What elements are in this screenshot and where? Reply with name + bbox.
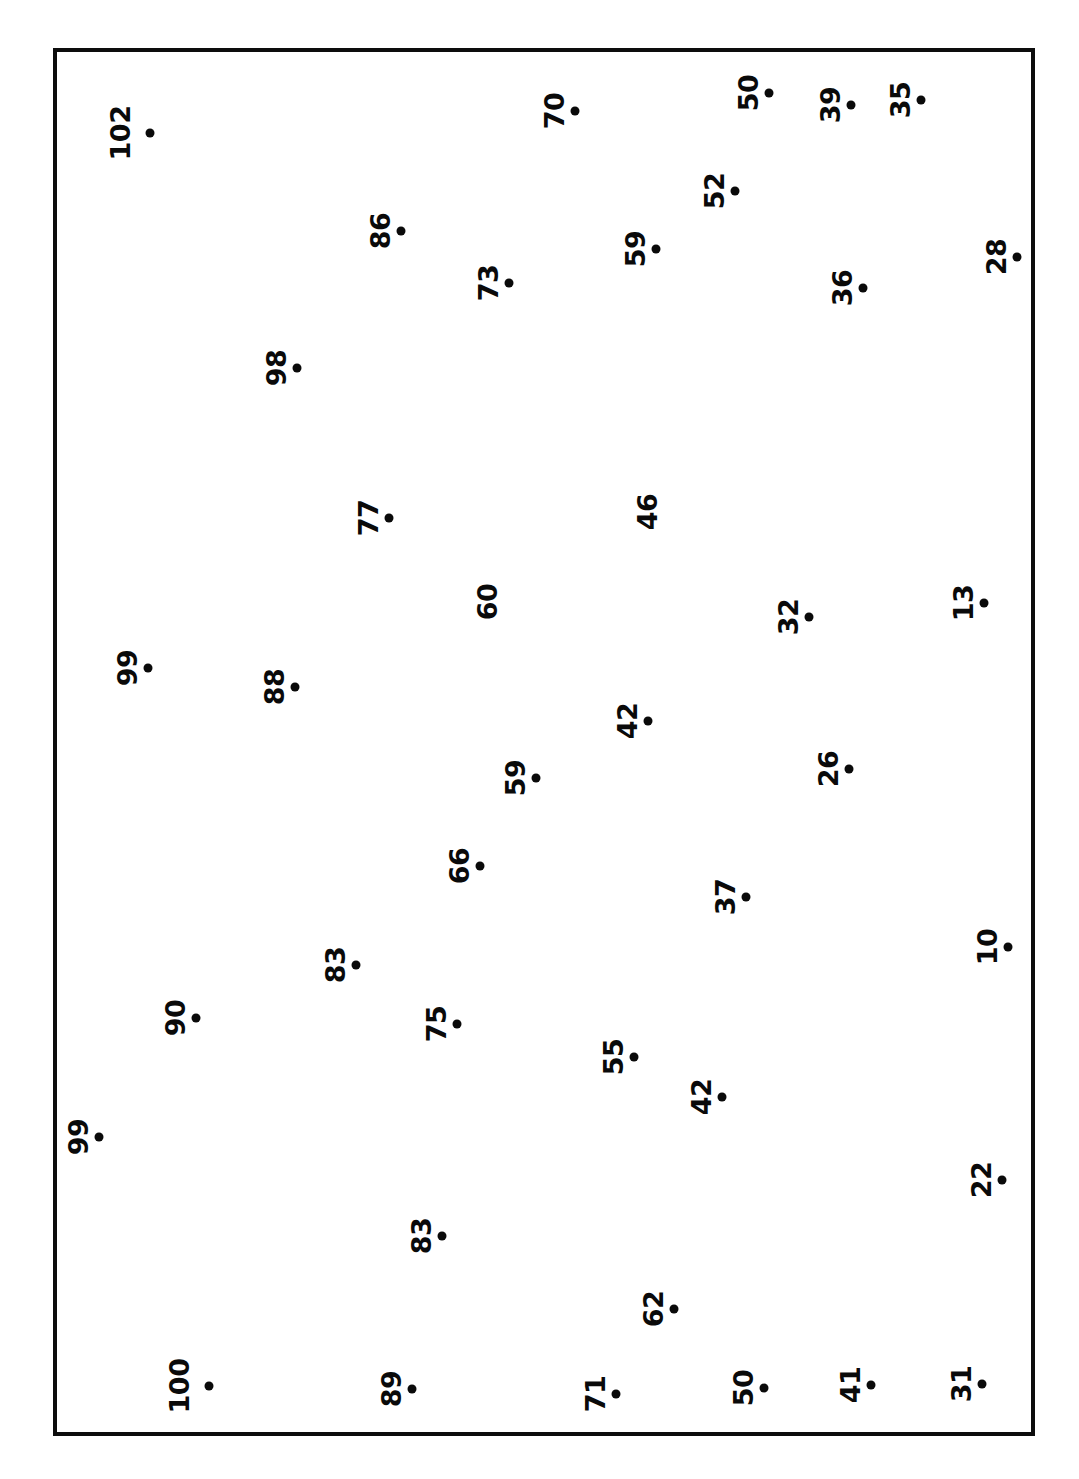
scatter-marker-dot	[293, 364, 302, 373]
scatter-point-label: 10	[974, 929, 1001, 966]
scatter-point-label: 22	[968, 1162, 995, 1199]
scatter-marker-dot	[845, 765, 854, 774]
scatter-point-label: 66	[446, 848, 473, 885]
scatter-point-label: 50	[735, 75, 762, 112]
scatter-point-label: 73	[475, 265, 502, 302]
scatter-marker-dot	[630, 1053, 639, 1062]
scatter-point-label: 59	[622, 231, 649, 268]
scatter-point-label: 102	[107, 106, 134, 161]
scatter-point-label: 52	[701, 173, 728, 210]
scatter-point-label: 99	[65, 1119, 92, 1156]
scatter-point-label: 42	[688, 1079, 715, 1116]
scatter-marker-dot	[917, 96, 926, 105]
scatter-marker-dot	[847, 101, 856, 110]
scatter-marker-dot	[867, 1381, 876, 1390]
scatter-marker-dot	[453, 1020, 462, 1029]
scatter-marker-dot	[670, 1305, 679, 1314]
scatter-point-label: 62	[640, 1291, 667, 1328]
scatter-point-label: 28	[983, 239, 1010, 276]
scatter-marker-dot	[352, 961, 361, 970]
scatter-point-label: 77	[355, 500, 382, 537]
scatter-point-label: 35	[887, 82, 914, 119]
scatter-point-label: 83	[408, 1218, 435, 1255]
scatter-point-label: 32	[775, 599, 802, 636]
scatter-marker-dot	[408, 1385, 417, 1394]
scatter-marker-dot	[397, 227, 406, 236]
scatter-point-label: 31	[948, 1366, 975, 1403]
scatter-point-label: 98	[263, 350, 290, 387]
scatter-marker-dot	[1013, 253, 1022, 262]
scatter-point-label: 50	[730, 1370, 757, 1407]
scatter-point-label: 75	[423, 1006, 450, 1043]
scatter-point-label: 37	[712, 879, 739, 916]
scatter-marker-dot	[980, 599, 989, 608]
scatter-marker-dot	[291, 683, 300, 692]
scatter-marker-dot	[644, 717, 653, 726]
scatter-marker-dot	[95, 1133, 104, 1142]
scatter-point-label: 46	[634, 494, 661, 531]
scatter-marker-dot	[718, 1093, 727, 1102]
scatter-marker-dot	[859, 284, 868, 293]
scatter-point-label: 99	[114, 650, 141, 687]
scatter-point-label: 88	[261, 669, 288, 706]
scatter-point-label: 55	[600, 1039, 627, 1076]
scatter-marker-dot	[385, 514, 394, 523]
scatter-point-label: 70	[541, 93, 568, 130]
scatter-marker-dot	[476, 862, 485, 871]
scatter-marker-dot	[571, 107, 580, 116]
scatter-marker-dot	[532, 774, 541, 783]
scatter-point-label: 39	[817, 87, 844, 124]
scatter-marker-dot	[205, 1382, 214, 1391]
scatter-point-label: 100	[166, 1359, 193, 1414]
scatter-point-label: 71	[582, 1376, 609, 1413]
scatter-marker-dot	[144, 664, 153, 673]
scatter-point-label: 36	[829, 270, 856, 307]
scatter-marker-dot	[652, 245, 661, 254]
scatter-marker-dot	[438, 1232, 447, 1241]
scatter-point-label: 26	[815, 751, 842, 788]
scatter-marker-dot	[765, 89, 774, 98]
plot-page: 1027050393586525973362898774660321399884…	[0, 0, 1079, 1479]
scatter-marker-dot	[978, 1380, 987, 1389]
scatter-point-label: 86	[367, 213, 394, 250]
scatter-marker-dot	[742, 893, 751, 902]
scatter-marker-dot	[805, 613, 814, 622]
plot-frame-border	[53, 48, 1035, 1436]
scatter-point-label: 90	[162, 1000, 189, 1037]
scatter-marker-dot	[1004, 943, 1013, 952]
scatter-marker-dot	[760, 1384, 769, 1393]
scatter-marker-dot	[731, 187, 740, 196]
scatter-marker-dot	[146, 129, 155, 138]
scatter-marker-dot	[505, 279, 514, 288]
scatter-marker-dot	[612, 1390, 621, 1399]
scatter-point-label: 89	[378, 1371, 405, 1408]
scatter-point-label: 41	[837, 1367, 864, 1404]
scatter-marker-dot	[192, 1014, 201, 1023]
scatter-point-label: 60	[474, 584, 501, 621]
scatter-point-label: 83	[322, 947, 349, 984]
scatter-point-label: 13	[950, 585, 977, 622]
scatter-point-label: 42	[614, 703, 641, 740]
scatter-point-label: 59	[502, 760, 529, 797]
scatter-marker-dot	[998, 1176, 1007, 1185]
